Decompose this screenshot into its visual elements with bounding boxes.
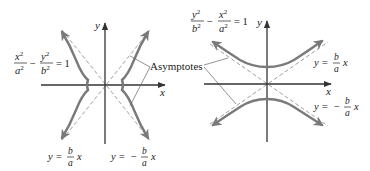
asym-num: b (345, 96, 350, 106)
left-eq-den2: b2 (41, 64, 50, 76)
left-y-label: y (94, 19, 100, 31)
right-eq-den2: a2 (219, 22, 228, 34)
asym-lhs: y = (313, 57, 328, 68)
asym-num: b (334, 52, 339, 62)
asym-sign: − (131, 151, 137, 162)
asym-var: x (353, 101, 359, 112)
asym-var: x (150, 151, 156, 162)
asym-den: a (68, 158, 73, 168)
left-vertex-left (87, 80, 88, 90)
asym-lhs: y = (110, 151, 125, 162)
asym-num: b (68, 146, 73, 156)
left-x-label: x (159, 86, 165, 98)
left-branch-upper-left (62, 32, 88, 80)
asym-lhs: y = (313, 101, 328, 112)
right-asymptote-positive (210, 42, 328, 124)
asym-den: a (345, 108, 350, 118)
right-eq-num2: x2 (218, 8, 228, 20)
right-branch-lower-right (122, 90, 148, 138)
asym-var: x (342, 57, 348, 68)
right-y-label: y (256, 16, 262, 28)
right-eq-minus: − (207, 16, 213, 27)
right-eq-num1: y2 (191, 8, 201, 20)
right-branch-upper-right (122, 32, 148, 80)
asym-sign: − (334, 101, 340, 112)
left-asymptote-label-positive: y = b a x (47, 146, 82, 168)
leader-to-right-asym-lower (204, 67, 236, 104)
left-eq-num1: x2 (14, 50, 24, 62)
right-hyperbola-graph: y x y2 b2 − x2 a2 = 1 y = b a x y = − b … (191, 8, 359, 142)
right-asymptote-label-positive: y = b a x (313, 52, 348, 74)
asym-var: x (76, 151, 82, 162)
left-hyperbola-graph: y x x2 a2 − y2 b2 = 1 y = b a x y = − b … (14, 19, 165, 168)
hyperbola-diagram: y x x2 a2 − y2 b2 = 1 y = b a x y = − b … (0, 0, 370, 171)
leader-to-left-asym-lower (130, 67, 150, 106)
left-vertex-right (122, 80, 123, 90)
left-eq-rhs: = 1 (56, 58, 70, 69)
leader-to-right-asym-upper (204, 58, 228, 65)
asymptotes-callout: Asymptotes (130, 56, 236, 106)
right-x-label: x (325, 85, 331, 97)
right-asymptote-label-negative: y = − b a x (313, 96, 359, 118)
left-branch-lower-left (62, 90, 88, 138)
right-eq-den1: b2 (192, 22, 201, 34)
asym-num: b (142, 146, 147, 156)
right-equation: y2 b2 − x2 a2 = 1 (191, 8, 248, 34)
right-eq-rhs: = 1 (234, 16, 248, 27)
asym-den: a (334, 64, 339, 74)
asymptotes-label: Asymptotes (150, 60, 203, 72)
asym-lhs: y = (47, 151, 62, 162)
asym-den: a (142, 158, 147, 168)
left-eq-num2: y2 (40, 50, 50, 62)
left-eq-minus: − (30, 58, 36, 69)
upper-branch-left (213, 42, 267, 67)
left-asymptote-label-negative: y = − b a x (110, 146, 156, 168)
left-eq-den1: a2 (15, 64, 24, 76)
hyperbola-figure: y x x2 a2 − y2 b2 = 1 y = b a x y = − b … (0, 0, 370, 171)
left-equation: x2 a2 − y2 b2 = 1 (14, 50, 70, 76)
lower-branch-left (213, 99, 267, 125)
